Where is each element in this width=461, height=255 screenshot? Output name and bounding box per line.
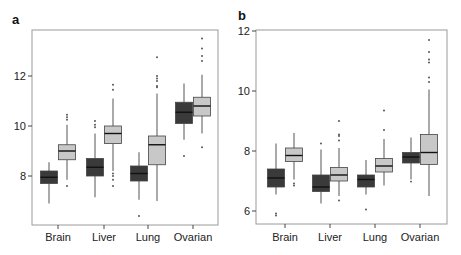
panel-b-boxes <box>268 39 438 216</box>
panel-b-plot-frame <box>256 30 447 224</box>
y-tick-label: 8 <box>244 145 250 157</box>
box-brain-dark <box>41 162 58 203</box>
outlier-point <box>112 173 114 175</box>
outlier-point <box>156 80 158 82</box>
outlier-point <box>66 114 68 116</box>
box-liver-light <box>105 84 122 187</box>
outlier-point <box>428 77 430 79</box>
box <box>331 168 348 182</box>
box-lung-dark <box>358 160 375 210</box>
box-liver-dark <box>313 143 330 204</box>
box <box>403 153 420 164</box>
y-tick-label: 10 <box>238 85 250 97</box>
outlier-point <box>428 62 430 64</box>
panel-a-x-axis: Brain Liver Lung Ovarian <box>45 225 212 243</box>
outlier-point <box>338 140 340 142</box>
x-tick-label-lung: Lung <box>363 231 387 243</box>
outlier-point <box>428 51 430 53</box>
box <box>421 135 438 165</box>
outlier-point <box>275 215 277 217</box>
box-ovarian-dark <box>176 84 193 157</box>
outlier-point <box>156 85 158 87</box>
outlier-point <box>338 120 340 122</box>
x-tick-label-liver: Liver <box>318 231 342 243</box>
panel-b: b 6 8 10 12 Brain Liver Lung Ovarian <box>238 8 447 243</box>
panel-b-x-axis: Brain Liver Lung Ovarian <box>272 224 439 243</box>
outlier-point <box>112 185 114 187</box>
outlier-point <box>156 56 158 58</box>
box-brain-light <box>59 114 76 187</box>
x-tick-label-lung: Lung <box>136 231 160 243</box>
outlier-point <box>201 55 203 57</box>
outlier-point <box>410 181 412 183</box>
box-lung-light <box>376 110 393 186</box>
box-brain-light <box>286 133 303 186</box>
outlier-point <box>94 124 96 126</box>
outlier-point <box>66 116 68 118</box>
figure: a 8 10 12 Brain Liver Lung Ovarian b <box>0 0 461 255</box>
outlier-point <box>183 155 185 157</box>
y-tick-label: 12 <box>14 70 26 82</box>
outlier-point <box>156 75 158 77</box>
box-lung-dark <box>131 152 148 217</box>
outlier-point <box>201 60 203 62</box>
box-ovarian-light <box>194 38 211 149</box>
panel-b-label: b <box>238 8 246 23</box>
box-ovarian-light <box>421 39 438 196</box>
box <box>59 145 76 160</box>
panel-a-plot-frame <box>32 30 218 225</box>
outlier-point <box>293 185 295 187</box>
x-tick-label-brain: Brain <box>45 231 71 243</box>
outlier-point <box>428 81 430 83</box>
outlier-point <box>320 143 322 145</box>
outlier-point <box>112 179 114 181</box>
panel-a-label: a <box>12 12 20 27</box>
outlier-point <box>94 120 96 122</box>
x-tick-label-ovarian: Ovarian <box>174 231 213 243</box>
panel-a-boxes <box>41 38 211 217</box>
box <box>376 159 393 173</box>
panel-a-y-axis: 8 10 12 <box>14 70 32 182</box>
x-tick-label-liver: Liver <box>92 231 116 243</box>
outlier-point <box>275 213 277 215</box>
x-tick-label-brain: Brain <box>272 231 298 243</box>
outlier-point <box>383 129 385 131</box>
outlier-point <box>66 119 68 121</box>
outlier-point <box>365 209 367 211</box>
y-tick-label: 8 <box>20 170 26 182</box>
box <box>358 175 375 187</box>
box <box>149 136 166 165</box>
outlier-point <box>383 110 385 112</box>
outlier-point <box>338 200 340 202</box>
box-lung-light <box>149 56 166 201</box>
box-brain-dark <box>268 144 285 217</box>
outlier-point <box>138 215 140 217</box>
outlier-point <box>338 134 340 136</box>
outlier-point <box>112 89 114 91</box>
box-ovarian-dark <box>403 138 420 183</box>
outlier-point <box>201 38 203 40</box>
box <box>313 175 330 192</box>
outlier-point <box>293 183 295 185</box>
y-tick-label: 6 <box>244 205 250 217</box>
outlier-point <box>112 175 114 177</box>
box <box>286 148 303 162</box>
box <box>105 126 122 144</box>
outlier-point <box>94 126 96 128</box>
outlier-point <box>112 84 114 86</box>
outlier-point <box>156 78 158 80</box>
y-tick-label: 10 <box>14 120 26 132</box>
box-liver-light <box>331 120 348 201</box>
outlier-point <box>428 59 430 61</box>
outlier-point <box>201 48 203 50</box>
outlier-point <box>66 185 68 187</box>
outlier-point <box>201 146 203 148</box>
panel-b-y-axis: 6 8 10 12 <box>238 25 256 217</box>
outlier-point <box>428 39 430 41</box>
y-tick-label: 12 <box>238 25 250 37</box>
x-tick-label-ovarian: Ovarian <box>401 231 440 243</box>
panel-a: a 8 10 12 Brain Liver Lung Ovarian <box>12 12 218 243</box>
box-liver-dark <box>87 120 104 197</box>
